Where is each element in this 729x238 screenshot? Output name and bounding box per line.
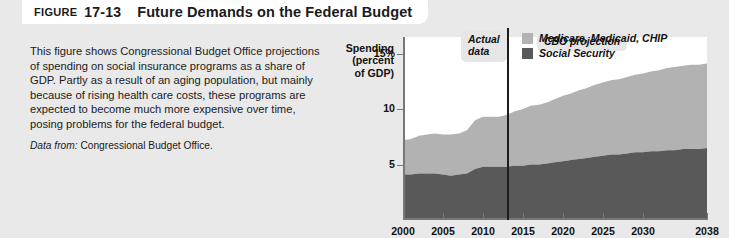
figure-title: Future Demands on the Federal Budget [137,4,412,20]
figure-panel: FIGURE 17-13 Future Demands on the Feder… [0,0,729,238]
x-tick-2015 [523,213,524,220]
legend-item-medicare: Medicare, Medicaid, CHIP [522,32,667,44]
area-chart: Spending (percent of GDP) 51015%20002005… [332,26,710,226]
figure-caption: This figure shows Congressional Budget O… [30,44,330,153]
y-tick-10 [397,109,404,110]
y-tick-15 [397,54,404,55]
x-tick-label-2005: 2005 [431,225,455,237]
y-tick-label-5: 5 [345,158,395,170]
y-tick-5 [397,165,404,166]
legend-label-social-security: Social Security [539,47,615,59]
x-axis-line [403,218,707,220]
figure-word: FIGURE [34,6,77,18]
projection-divider [507,28,509,220]
plot-area: 51015%20002005201020152020202520302038Ye… [403,37,707,220]
y-tick-label-10: 10 [345,102,395,114]
y-axis-line [403,37,405,220]
source-value: Congressional Budget Office. [80,140,212,151]
x-tick-label-2015: 2015 [511,225,535,237]
caption-text: This figure shows Congressional Budget O… [30,44,330,132]
chart-legend: Medicare, Medicaid, CHIP Social Security [522,32,667,59]
plot-inner: 51015%20002005201020152020202520302038Ye… [403,37,707,220]
x-tick-2025 [603,213,604,220]
annotation-actual-data: Actual data [461,31,507,62]
x-tick-label-2038: 2038 [695,225,719,237]
x-tick-2005 [443,213,444,220]
legend-swatch-social-security [522,48,533,59]
x-tick-label-2000: 2000 [391,225,415,237]
x-tick-label-2020: 2020 [551,225,575,237]
legend-label-medicare: Medicare, Medicaid, CHIP [539,32,667,44]
y-axis-title-line-3: of GDP) [332,67,394,79]
figure-header: FIGURE 17-13 Future Demands on the Feder… [22,0,428,24]
caption-source: Data from: Congressional Budget Office. [30,139,330,154]
legend-swatch-medicare [522,33,533,44]
figure-number: 17-13 [84,4,121,20]
x-tick-label-2025: 2025 [591,225,615,237]
figure-body: This figure shows Congressional Budget O… [22,24,710,226]
source-label: Data from: [30,140,78,151]
y-tick-label-15: 15% [345,47,395,59]
x-tick-2020 [563,213,564,220]
x-tick-2010 [483,213,484,220]
x-tick-2038 [707,213,708,220]
x-tick-label-2030: 2030 [631,225,655,237]
stacked-area-svg [403,37,707,220]
x-tick-label-2010: 2010 [471,225,495,237]
legend-item-social-security: Social Security [522,47,667,59]
x-tick-2030 [643,213,644,220]
